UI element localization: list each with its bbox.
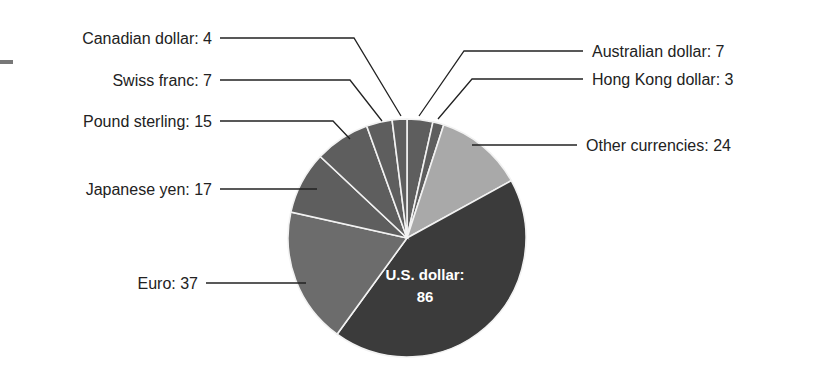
label-swiss-franc: Swiss franc: 7 [112,72,212,89]
label-us-dollar: U.S. dollar: [385,266,464,283]
label-hong-kong-dollar: Hong Kong dollar: 3 [592,71,734,88]
pie-chart: Canadian dollar: 4 Swiss franc: 7 Pound … [0,0,813,386]
leader-canadian [220,38,401,116]
label-other-currencies: Other currencies: 24 [586,137,731,154]
label-canadian-dollar: Canadian dollar: 4 [82,30,212,47]
leader-hongkong [438,79,583,119]
label-pound-sterling: Pound sterling: 15 [83,113,212,130]
leader-swiss [220,80,382,121]
label-euro: Euro: 37 [138,275,199,292]
label-japanese-yen: Japanese yen: 17 [86,181,212,198]
leader-pound [220,121,350,139]
label-us-dollar-value: 86 [417,288,434,305]
label-australian-dollar: Australian dollar: 7 [592,43,725,60]
leader-australian [419,51,583,116]
pie-slices [288,119,526,357]
